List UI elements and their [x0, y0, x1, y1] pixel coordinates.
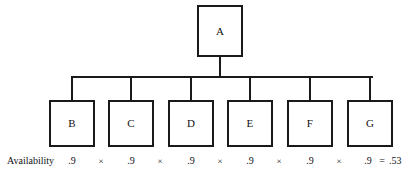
node-box-f[interactable]: F [287, 100, 333, 147]
connector-drop-f [309, 76, 311, 101]
availability-term-g: .9 [358, 152, 378, 170]
connector-bus [71, 76, 373, 78]
node-label-f: F [307, 118, 313, 129]
node-label-e: E [247, 118, 254, 129]
connector-drop-d [190, 76, 192, 101]
availability-result: .53 [389, 152, 415, 170]
node-label-g: G [366, 118, 374, 129]
connector-drop-g [369, 76, 371, 101]
availability-term-e: .9 [240, 152, 260, 170]
availability-row: Availability .9 × .9 × .9 × .9 × .9 × .9… [0, 152, 415, 172]
availability-equals-sign: = [376, 152, 388, 170]
availability-operator-1: × [94, 152, 108, 170]
node-box-e[interactable]: E [227, 100, 273, 147]
diagram-canvas: A B C D E F G Availability .9 × .9 × .9 … [0, 0, 415, 172]
connector-drop-e [249, 76, 251, 101]
node-box-b[interactable]: B [49, 100, 95, 147]
node-box-g[interactable]: G [347, 100, 393, 147]
node-box-a[interactable]: A [197, 5, 243, 57]
node-label-b: B [68, 118, 76, 129]
node-label-d: D [187, 118, 195, 129]
availability-operator-3: × [213, 152, 227, 170]
connector-drop-b [71, 76, 73, 101]
node-label-c: C [127, 118, 135, 129]
availability-operator-4: × [272, 152, 286, 170]
availability-term-b: .9 [62, 152, 82, 170]
node-label-a: A [216, 26, 224, 37]
availability-label: Availability [7, 152, 54, 170]
availability-term-c: .9 [121, 152, 141, 170]
availability-operator-5: × [332, 152, 346, 170]
node-box-c[interactable]: C [108, 100, 154, 147]
availability-term-f: .9 [300, 152, 320, 170]
connector-root-stem [219, 56, 221, 78]
availability-operator-2: × [153, 152, 167, 170]
availability-term-d: .9 [181, 152, 201, 170]
node-box-d[interactable]: D [168, 100, 214, 147]
connector-drop-c [130, 76, 132, 101]
